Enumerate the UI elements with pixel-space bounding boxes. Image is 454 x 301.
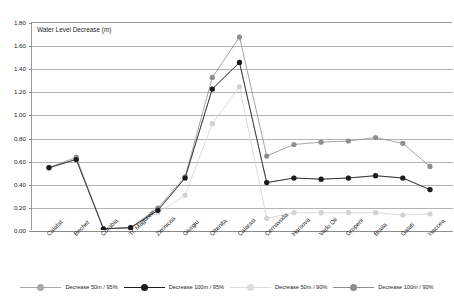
- legend-line: [333, 287, 351, 288]
- legend-line: [43, 287, 61, 288]
- data-point: [346, 210, 351, 215]
- data-point: [210, 86, 215, 91]
- data-point: [373, 210, 378, 215]
- chart-legend: Decrease 50m / 95%Decrease 100m / 95%Dec…: [0, 277, 454, 297]
- data-point: [373, 173, 378, 178]
- data-point: [346, 138, 351, 143]
- legend-entry[interactable]: Decrease 50m / 90%: [230, 284, 327, 291]
- legend-line: [253, 287, 271, 288]
- data-point: [46, 165, 51, 170]
- legend-line: [124, 287, 142, 288]
- data-point: [319, 177, 324, 182]
- legend-entry[interactable]: Decrease 50m / 95%: [20, 284, 117, 291]
- legend-label: Decrease 50m / 95%: [65, 284, 117, 290]
- data-point: [319, 140, 324, 145]
- legend-label: Decrease 50m / 90%: [275, 284, 327, 290]
- data-point: [291, 175, 296, 180]
- y-tick-label: 1.60: [14, 42, 26, 49]
- y-tick-label: 0.40: [14, 180, 26, 187]
- data-point: [427, 164, 432, 169]
- data-point: [210, 121, 215, 126]
- y-tick-label: 0.80: [14, 134, 26, 141]
- data-point: [264, 153, 269, 158]
- data-point: [237, 60, 242, 65]
- data-point: [400, 141, 405, 146]
- data-point: [319, 210, 324, 215]
- data-point: [74, 157, 79, 162]
- data-point: [291, 210, 296, 215]
- y-tick-label: 1.80: [14, 19, 26, 26]
- y-tick-label: 0.60: [14, 157, 26, 164]
- x-axis-tick-labels: CalafatBechetCorabiaTr. MagureleZimnicea…: [31, 232, 452, 274]
- data-point: [237, 34, 242, 39]
- data-point: [237, 84, 242, 89]
- water-level-decrease-chart: 1.801.601.401.201.000.800.600.400.200.00…: [0, 0, 454, 301]
- data-point: [210, 75, 215, 80]
- series-layer: [31, 22, 452, 230]
- legend-label: Decrease 100m / 90%: [378, 284, 433, 290]
- y-axis-tick-labels: 1.801.601.401.201.000.800.600.400.200.00: [0, 22, 28, 230]
- data-point: [264, 216, 269, 221]
- data-point: [400, 212, 405, 217]
- y-tick-label: 0.20: [14, 203, 26, 210]
- series-line: [49, 87, 430, 229]
- y-tick-label: 1.20: [14, 88, 26, 95]
- data-point: [427, 187, 432, 192]
- legend-entry[interactable]: Decrease 100m / 95%: [124, 284, 224, 291]
- y-tick-label: 0.00: [14, 227, 26, 234]
- legend-label: Decrease 100m / 95%: [169, 284, 224, 290]
- data-point: [182, 175, 187, 180]
- data-point: [373, 135, 378, 140]
- data-point: [291, 142, 296, 147]
- legend-line: [147, 287, 165, 288]
- legend-line: [356, 287, 374, 288]
- data-point: [264, 180, 269, 185]
- legend-entry[interactable]: Decrease 100m / 90%: [333, 284, 433, 291]
- data-point: [400, 175, 405, 180]
- y-tick-label: 1.00: [14, 111, 26, 118]
- y-tick-label: 1.40: [14, 65, 26, 72]
- series-line: [49, 37, 430, 229]
- data-point: [182, 193, 187, 198]
- data-point: [427, 211, 432, 216]
- data-point: [346, 175, 351, 180]
- legend-line: [230, 287, 248, 288]
- legend-line: [20, 287, 38, 288]
